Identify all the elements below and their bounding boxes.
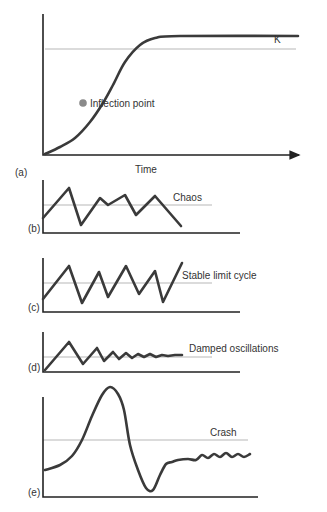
panel-c-label: (c) bbox=[28, 302, 40, 313]
panel-d-label: (d) bbox=[28, 362, 40, 373]
stable-limit-cycle-label: Stable limit cycle bbox=[182, 270, 257, 281]
damped-oscillations-label: Damped oscillations bbox=[189, 343, 279, 354]
panel-a-logistic: K Inflection point Time (a) bbox=[15, 14, 299, 178]
panel-a-label: (a) bbox=[15, 167, 27, 178]
panel-c-axes bbox=[43, 258, 240, 312]
chaos-label: Chaos bbox=[173, 192, 202, 203]
logistic-curve bbox=[45, 36, 298, 154]
panel-b-label: (b) bbox=[28, 223, 40, 234]
panel-b-axes bbox=[43, 180, 240, 233]
k-label: K bbox=[274, 34, 281, 45]
crash-label: Crash bbox=[210, 427, 237, 438]
panel-b-chaos: Chaos (b) bbox=[28, 180, 240, 234]
time-axis-label: Time bbox=[135, 164, 157, 175]
damped-oscillations-curve bbox=[45, 342, 182, 370]
panel-e-label: (e) bbox=[28, 487, 40, 498]
panel-e-axes bbox=[43, 397, 258, 497]
inflection-point-marker bbox=[79, 99, 87, 107]
inflection-label: Inflection point bbox=[90, 98, 155, 109]
panel-e-crash: Crash (e) bbox=[28, 387, 258, 498]
population-dynamics-figure: K Inflection point Time (a) Chaos (b) St… bbox=[0, 0, 327, 512]
panel-c-stable-limit-cycle: Stable limit cycle (c) bbox=[28, 258, 257, 313]
crash-curve bbox=[45, 387, 250, 491]
panel-d-damped-oscillations: Damped oscillations (d) bbox=[28, 332, 279, 373]
chaos-curve bbox=[43, 188, 181, 226]
